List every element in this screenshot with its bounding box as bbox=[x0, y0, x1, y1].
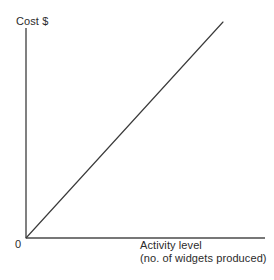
origin-label: 0 bbox=[15, 238, 21, 251]
chart-container: Cost $ 0 Activity level (no. of widgets … bbox=[0, 0, 274, 280]
x-axis-label-primary: Activity level bbox=[140, 239, 202, 251]
x-axis-label: Activity level (no. of widgets produced) bbox=[140, 239, 267, 265]
x-axis-label-secondary: (no. of widgets produced) bbox=[140, 252, 267, 265]
variable-cost-line bbox=[26, 22, 223, 238]
chart-plot-area bbox=[0, 0, 274, 280]
y-axis-label: Cost $ bbox=[16, 15, 48, 28]
